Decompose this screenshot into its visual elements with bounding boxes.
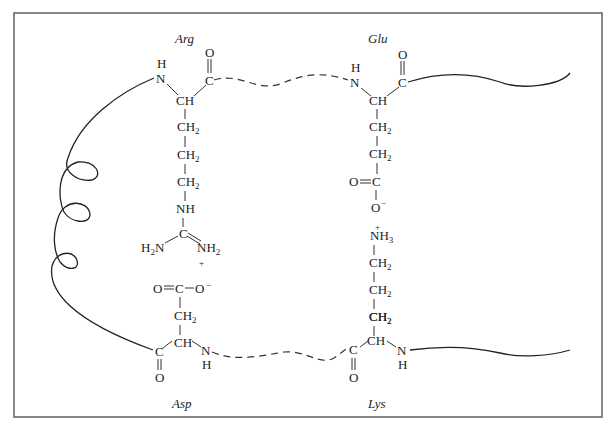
protein-salt-bridge-diagram: Arg H N CH C O CH2 CH2 CH2 NH C H2N NH2 … — [0, 0, 610, 429]
arg-nh2-plus: NH2 — [197, 240, 220, 257]
arg-guanidino-c: C — [179, 226, 188, 241]
arg-h: H — [157, 56, 166, 71]
asp-o: O — [155, 370, 164, 385]
residue-asp: O C O − CH2 CH C O N H Asp — [153, 280, 211, 411]
lys-nh3: NH3 — [370, 228, 394, 245]
bond — [163, 341, 172, 348]
asp-h: H — [202, 357, 211, 372]
lys-ch2-4: CH2 — [369, 309, 392, 326]
dashed-chain-bottom — [212, 348, 348, 360]
glu-label: Glu — [368, 31, 388, 46]
arg-h2n: H2N — [141, 240, 165, 257]
glu-minus-charge: − — [381, 198, 386, 208]
lys-c: C — [349, 342, 358, 357]
asp-ca: CH — [174, 335, 192, 350]
asp-carboxyl-c: C — [175, 281, 184, 296]
lys-label: Lys — [367, 396, 386, 411]
glu-h: H — [351, 60, 360, 75]
residue-glu: Glu H N CH C O CH2 CH2 C O O − — [349, 31, 407, 215]
arg-ch2-3: CH2 — [177, 174, 200, 191]
glu-o-double: O — [349, 174, 358, 189]
asp-ch2: CH2 — [174, 308, 197, 325]
dashed-chain-top — [214, 75, 348, 86]
asp-c: C — [155, 344, 164, 359]
glu-o: O — [398, 47, 407, 62]
arg-nh: NH — [176, 201, 195, 216]
lys-o: O — [349, 370, 358, 385]
asp-o-double: O — [153, 281, 162, 296]
glu-ch2-2: CH2 — [369, 146, 392, 163]
helix-chain-left — [52, 78, 154, 350]
lys-h: H — [398, 357, 407, 372]
arg-plus-charge: + — [199, 258, 204, 268]
glu-ca: CH — [369, 93, 387, 108]
chain-right-top — [408, 73, 570, 86]
bond — [165, 236, 178, 243]
lys-n: N — [397, 343, 407, 358]
residue-arg: Arg H N CH C O CH2 CH2 CH2 NH C H2N NH2 … — [141, 31, 220, 268]
arg-ch2-1: CH2 — [177, 119, 200, 136]
arg-o: O — [205, 45, 214, 60]
asp-label: Asp — [171, 396, 192, 411]
bond — [192, 341, 201, 347]
asp-minus-charge: − — [206, 280, 211, 290]
glu-o-minus: O — [371, 200, 380, 215]
arg-ca: CH — [176, 93, 194, 108]
residue-lys: + NH3 CH2 CH2 CH2 CH2 CH C O N H Lys — [349, 222, 407, 411]
arg-c: C — [205, 73, 214, 88]
arg-n: N — [156, 71, 166, 86]
lys-ca: CH — [367, 333, 385, 348]
arg-ch2-2: CH2 — [177, 147, 200, 164]
asp-o-minus: O — [195, 281, 204, 296]
arg-label: Arg — [174, 31, 195, 46]
glu-c: C — [398, 75, 407, 90]
glu-carboxyl-c: C — [372, 174, 381, 189]
bond — [387, 341, 396, 347]
lys-ch2-2: CH2 — [369, 282, 392, 299]
glu-ch2-1: CH2 — [369, 119, 392, 136]
chain-right-bottom — [410, 347, 570, 356]
lys-ch2-1: CH2 — [369, 255, 392, 272]
asp-n: N — [201, 343, 211, 358]
glu-n: N — [350, 75, 360, 90]
diagram-canvas: Arg H N CH C O CH2 CH2 CH2 NH C H2N NH2 … — [0, 0, 610, 429]
